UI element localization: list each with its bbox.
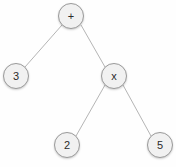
edge-root-to-x (81, 25, 105, 67)
edge-root-to-3 (25, 25, 62, 67)
tree-node-left-operand[interactable]: 3 (3, 63, 29, 89)
tree-node-multiply-right-operand[interactable]: 5 (147, 132, 173, 158)
tree-node-label: 5 (157, 140, 163, 151)
tree-node-root[interactable]: + (58, 3, 84, 29)
edge-x-to-2 (76, 85, 105, 136)
tree-node-label: + (68, 11, 74, 22)
tree-node-label: 2 (64, 140, 70, 151)
edge-x-to-5 (123, 85, 151, 136)
tree-node-multiply[interactable]: x (101, 63, 127, 89)
expression-tree-diagram: + 3 x 2 5 (0, 0, 176, 167)
tree-node-label: 3 (13, 71, 19, 82)
tree-node-label: x (111, 71, 117, 82)
tree-node-multiply-left-operand[interactable]: 2 (54, 132, 80, 158)
